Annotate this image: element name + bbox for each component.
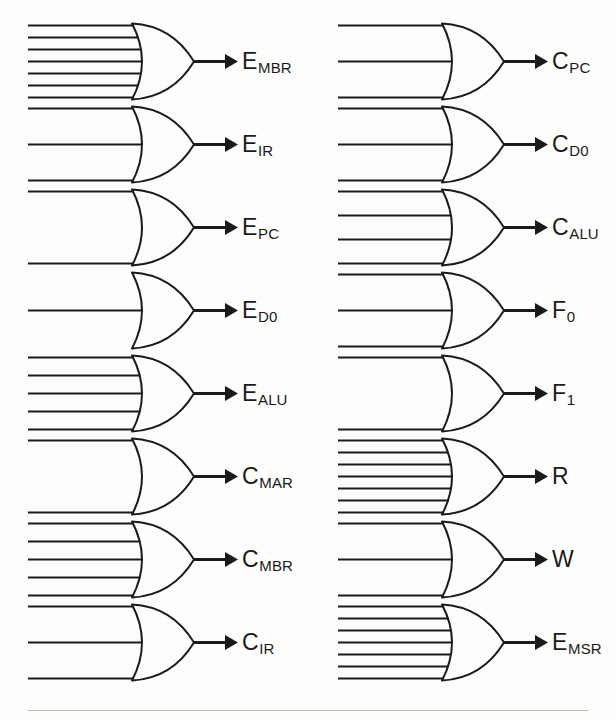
or-gate-g5: EALU — [28, 352, 290, 435]
or-gate-g8: CIR — [28, 601, 290, 684]
arrow-head-icon — [535, 303, 548, 318]
input-wires — [28, 607, 143, 679]
output-label-subscript: 0 — [566, 308, 575, 325]
or-gate-g1: EMBR — [28, 20, 290, 103]
arrow-head-icon — [535, 552, 548, 567]
input-wires — [28, 524, 143, 596]
arrow-head-icon — [535, 220, 548, 235]
arrow-head-icon — [535, 635, 548, 650]
output-label-subscript: D0 — [569, 142, 589, 159]
input-wires — [28, 192, 134, 264]
or-gate-body — [132, 439, 194, 515]
output-label-main: E — [552, 629, 568, 655]
input-wires — [28, 26, 143, 98]
input-wires — [28, 441, 134, 513]
output-label-subscript: IR — [259, 640, 275, 657]
output-label-g3: EPC — [242, 216, 279, 241]
input-wires — [338, 275, 453, 347]
or-gate-g3: EPC — [28, 186, 290, 269]
output-label-main: E — [242, 131, 258, 157]
arrow-head-icon — [225, 54, 238, 69]
or-gate-g13: F1 — [338, 352, 600, 435]
diagram-canvas: EMBREIREPCED0EALUCMARCMBRCIRCPCCD0CALUF0… — [0, 0, 616, 719]
input-wires — [28, 358, 143, 430]
input-wires — [338, 358, 444, 430]
arrow-head-icon — [225, 220, 238, 235]
output-label-g1: EMBR — [242, 50, 292, 75]
or-gate-g6: CMAR — [28, 435, 290, 518]
output-label-main: C — [552, 48, 569, 74]
output-label-main: E — [242, 48, 258, 74]
arrow-head-icon — [225, 303, 238, 318]
output-label-g13: F1 — [552, 382, 575, 407]
output-label-subscript: D0 — [258, 308, 278, 325]
arrow-head-icon — [225, 386, 238, 401]
output-label-subscript: 1 — [566, 391, 575, 408]
output-label-g11: CALU — [552, 216, 599, 241]
output-label-main: C — [552, 131, 569, 157]
input-wires — [338, 192, 452, 264]
output-label-g8: CIR — [242, 631, 275, 656]
output-label-main: F — [552, 380, 566, 406]
output-label-g15: W — [552, 548, 574, 571]
input-wires — [338, 109, 453, 181]
output-label-g7: CMBR — [242, 548, 293, 573]
output-label-g10: CD0 — [552, 133, 589, 158]
or-gate-g15: W — [338, 518, 600, 601]
output-label-main: F — [552, 297, 566, 323]
or-gate-body — [132, 190, 194, 266]
or-gate-g11: CALU — [338, 186, 600, 269]
arrow-head-icon — [535, 137, 548, 152]
input-wires — [338, 524, 453, 596]
arrow-head-icon — [225, 635, 238, 650]
or-gate-g9: CPC — [338, 20, 600, 103]
arrow-head-icon — [225, 469, 238, 484]
input-wires — [28, 109, 143, 181]
arrow-head-icon — [225, 137, 238, 152]
arrow-head-icon — [535, 54, 548, 69]
or-gate-g7: CMBR — [28, 518, 290, 601]
output-label-subscript: PC — [258, 225, 280, 242]
output-label-subscript: MSR — [568, 640, 602, 657]
output-label-main: W — [552, 546, 574, 572]
output-label-main: R — [552, 463, 569, 489]
output-label-g14: R — [552, 465, 569, 488]
or-gate-body — [442, 356, 504, 432]
output-label-subscript: MAR — [259, 474, 293, 491]
or-gate-g10: CD0 — [338, 103, 600, 186]
or-gate-g16: EMSR — [338, 601, 600, 684]
output-label-g9: CPC — [552, 50, 590, 75]
output-label-main: C — [242, 546, 259, 572]
output-label-g16: EMSR — [552, 631, 602, 656]
bottom-rule-divider — [28, 710, 588, 711]
output-label-main: E — [242, 380, 258, 406]
output-label-g6: CMAR — [242, 465, 293, 490]
output-label-g12: F0 — [552, 299, 575, 324]
arrow-head-icon — [225, 552, 238, 567]
or-gate-g12: F0 — [338, 269, 600, 352]
output-label-main: E — [242, 214, 258, 240]
input-wires — [338, 607, 453, 679]
input-wires — [338, 26, 453, 98]
output-label-main: C — [242, 629, 259, 655]
or-gate-g14: R — [338, 435, 600, 518]
or-gate-body — [442, 190, 504, 266]
or-gate-g2: EIR — [28, 103, 290, 186]
output-label-g2: EIR — [242, 133, 273, 158]
output-label-subscript: IR — [258, 142, 274, 159]
output-label-subscript: MBR — [258, 59, 292, 76]
output-label-g4: ED0 — [242, 299, 277, 324]
arrow-head-icon — [535, 469, 548, 484]
output-label-subscript: MBR — [259, 557, 293, 574]
arrow-head-icon — [535, 386, 548, 401]
output-label-main: C — [552, 214, 569, 240]
output-label-subscript: ALU — [258, 391, 288, 408]
output-label-main: E — [242, 297, 258, 323]
or-gate-g4: ED0 — [28, 269, 290, 352]
output-label-main: C — [242, 463, 259, 489]
output-label-subscript: PC — [569, 59, 591, 76]
input-wires — [338, 441, 453, 513]
output-label-g5: EALU — [242, 382, 288, 407]
output-label-subscript: ALU — [569, 225, 599, 242]
